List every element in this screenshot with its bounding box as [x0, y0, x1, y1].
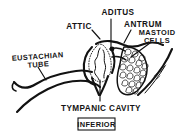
label-mastoid-line2: CELLS: [144, 36, 170, 45]
label-aditus: ADITUS: [102, 8, 135, 17]
aditus-marker-dot: [110, 47, 115, 52]
label-inferior: INFERIOR: [77, 120, 116, 129]
middle-ear-diagram: ADITUS ATTIC ANTRUM MASTOID CELLS EUSTAC…: [0, 0, 185, 135]
label-eustachian-line2: TUBE: [27, 59, 49, 69]
diagram-canvas: ADITUS ATTIC ANTRUM MASTOID CELLS EUSTAC…: [0, 0, 185, 135]
label-attic: ATTIC: [66, 22, 92, 31]
label-tympanic-cavity: TYMPANIC CAVITY: [61, 104, 141, 113]
inferior-caption-box: INFERIOR: [77, 118, 116, 130]
